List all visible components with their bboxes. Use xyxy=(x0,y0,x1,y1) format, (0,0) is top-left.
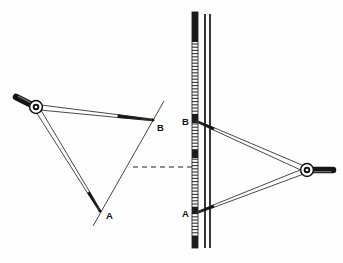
pivot-center-hole-right xyxy=(306,169,309,172)
technical-illustration: A B xyxy=(0,0,343,263)
point-label-b-right: B xyxy=(182,116,189,127)
pivot-center-hole xyxy=(35,106,38,109)
point-label-a-right: A xyxy=(182,208,189,219)
point-marker-a-left xyxy=(99,210,102,213)
figure-canvas: A B xyxy=(0,0,343,263)
point-marker-b-left xyxy=(152,119,155,122)
divider-pivot-right xyxy=(301,164,314,177)
divider-pivot-left xyxy=(30,101,43,114)
point-label-a-left: A xyxy=(106,210,113,221)
point-label-b-left: B xyxy=(157,122,164,133)
